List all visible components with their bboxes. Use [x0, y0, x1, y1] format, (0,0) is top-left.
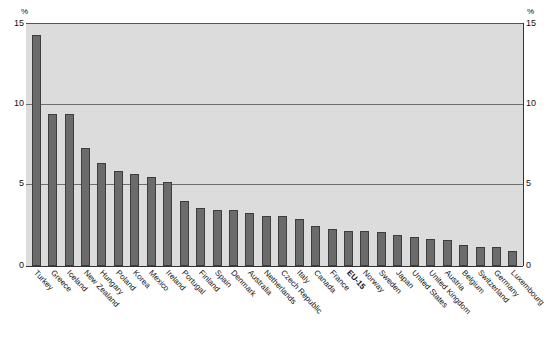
bar — [213, 210, 222, 266]
category-label-slot: EU-15 — [340, 267, 356, 340]
y-tick-label-right-15: 15 — [526, 19, 548, 28]
category-label-slot: Iceland — [61, 267, 77, 340]
bar — [65, 114, 74, 266]
bar-slot — [110, 24, 126, 266]
bar-slot — [291, 24, 307, 266]
bar-slot — [505, 24, 521, 266]
bar-slot — [390, 24, 406, 266]
bar-slot — [324, 24, 340, 266]
bar-slot — [357, 24, 373, 266]
bar — [32, 35, 41, 266]
bar-slot — [77, 24, 93, 266]
category-label-slot: Finland — [192, 267, 208, 340]
bar — [344, 231, 353, 266]
category-label-slot: New Zealand — [77, 267, 93, 340]
bar — [360, 231, 369, 266]
bar — [97, 163, 106, 266]
category-label-slot: Japan — [390, 267, 406, 340]
y-axis-line-right — [523, 23, 524, 266]
y-tick-label-left-15: 15 — [2, 19, 24, 28]
category-label-slot: Greece — [44, 267, 60, 340]
y-tick-label-left-0: 0 — [2, 261, 24, 270]
bar — [443, 240, 452, 266]
category-label: Luxembourg — [509, 269, 545, 307]
category-label-slot: Korea — [127, 267, 143, 340]
bar-slot — [127, 24, 143, 266]
bar — [311, 226, 320, 266]
bar-slot — [61, 24, 77, 266]
y-axis-unit-left: % — [21, 8, 28, 16]
bar-series — [26, 24, 523, 266]
bar-slot — [28, 24, 44, 266]
bar — [245, 213, 254, 266]
bar-slot — [160, 24, 176, 266]
bar — [180, 201, 189, 266]
bar — [278, 216, 287, 266]
bar — [262, 216, 271, 266]
category-label-slot: Netherlands — [258, 267, 274, 340]
category-label-slot: Ireland — [160, 267, 176, 340]
category-label-slot: Denmark — [225, 267, 241, 340]
bar-slot — [209, 24, 225, 266]
category-label-slot: Norway — [357, 267, 373, 340]
category-label-slot: Sweden — [373, 267, 389, 340]
bar — [295, 219, 304, 266]
bar-slot — [472, 24, 488, 266]
bar — [393, 235, 402, 266]
y-tick-label-left-10: 10 — [2, 99, 24, 108]
bar — [377, 232, 386, 266]
bar-slot — [340, 24, 356, 266]
bar — [328, 229, 337, 266]
y-tick-label-left-5: 5 — [2, 179, 24, 188]
category-label-slot: Belgium — [455, 267, 471, 340]
category-label-slot: Portugal — [176, 267, 192, 340]
category-label-slot: Canada — [307, 267, 323, 340]
bar — [459, 245, 468, 266]
bar-slot — [44, 24, 60, 266]
category-label-slot: Spain — [209, 267, 225, 340]
category-label-slot: Poland — [110, 267, 126, 340]
bar — [81, 148, 90, 266]
category-label-slot: France — [324, 267, 340, 340]
x-axis-category-labels: TurkeyGreeceIcelandNew ZealandHungaryPol… — [26, 267, 523, 340]
bar-slot — [94, 24, 110, 266]
bar — [196, 208, 205, 266]
bar-slot — [258, 24, 274, 266]
bar-slot — [225, 24, 241, 266]
bar — [147, 177, 156, 266]
bar — [130, 174, 139, 266]
category-label-slot: Australia — [242, 267, 258, 340]
bar — [508, 251, 517, 266]
category-label-slot: Italy — [291, 267, 307, 340]
y-tick-label-right-5: 5 — [526, 179, 548, 188]
bar-slot — [176, 24, 192, 266]
bar — [48, 114, 57, 266]
category-label-slot: Hungary — [94, 267, 110, 340]
bar-slot — [373, 24, 389, 266]
bar-slot — [488, 24, 504, 266]
bar-slot — [439, 24, 455, 266]
y-tick-label-right-0: 0 — [526, 261, 548, 270]
bar-chart: % % 15 10 5 0 15 10 5 0 TurkeyGreeceIcel… — [0, 0, 556, 340]
bar-slot — [192, 24, 208, 266]
category-label-slot: Germany — [488, 267, 504, 340]
bar — [492, 247, 501, 266]
bar-slot — [406, 24, 422, 266]
bar-slot — [423, 24, 439, 266]
category-label-slot: Luxembourg — [505, 267, 521, 340]
bar — [426, 239, 435, 266]
category-label-slot: Mexico — [143, 267, 159, 340]
bar — [410, 237, 419, 266]
bar-slot — [143, 24, 159, 266]
bar-slot — [242, 24, 258, 266]
y-axis-unit-right: % — [527, 8, 534, 16]
category-label-slot: Czech Republic — [275, 267, 291, 340]
bar-slot — [307, 24, 323, 266]
category-label-slot: Turkey — [28, 267, 44, 340]
category-label-slot: United Kingdom — [423, 267, 439, 340]
category-label-slot: Switzerland — [472, 267, 488, 340]
plot-area — [26, 23, 523, 266]
y-tick-label-right-10: 10 — [526, 99, 548, 108]
bar — [476, 247, 485, 266]
bar — [163, 182, 172, 266]
